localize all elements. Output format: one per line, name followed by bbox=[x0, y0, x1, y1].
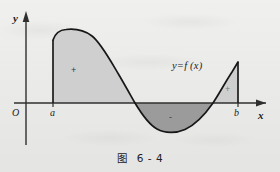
positive-area-left bbox=[53, 29, 135, 103]
tick-label-b: b bbox=[234, 108, 239, 118]
negative-sign: - bbox=[169, 113, 172, 122]
x-axis-label: x bbox=[258, 110, 264, 121]
integral-area-plot bbox=[0, 0, 280, 172]
positive-sign-right: + bbox=[225, 85, 230, 94]
x-axis-arrow-icon bbox=[256, 100, 266, 107]
positive-sign-left: + bbox=[71, 66, 76, 75]
tick-label-a: a bbox=[50, 108, 55, 118]
caption-label: 图 bbox=[117, 152, 128, 164]
figure-container: y x O a b y=f (x) + - + 图6 - 4 bbox=[0, 0, 280, 172]
y-axis-label: y bbox=[13, 13, 18, 24]
origin-label: O bbox=[12, 108, 19, 118]
y-axis-arrow-icon bbox=[23, 11, 30, 22]
curve-equation-label: y=f (x) bbox=[172, 61, 202, 72]
caption-number: 6 - 4 bbox=[137, 152, 163, 164]
figure-caption: 图6 - 4 bbox=[0, 150, 280, 165]
